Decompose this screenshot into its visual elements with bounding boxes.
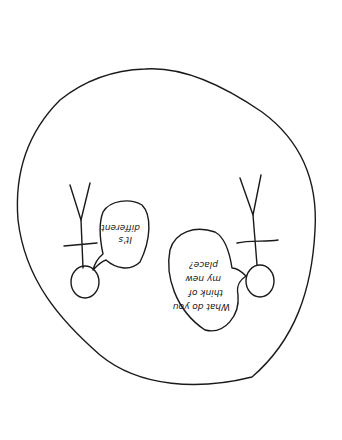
enclosing-oval — [17, 69, 315, 385]
right-speech-line-2: think of — [187, 288, 223, 298]
right-speech-line-3: my new — [185, 274, 221, 284]
left-stick-figure — [64, 183, 99, 298]
right-figure-head — [246, 265, 274, 297]
left-figure-arms — [64, 243, 97, 246]
right-speech-line-4: place? — [189, 260, 219, 270]
left-speech-bubble: It's different — [93, 201, 149, 270]
right-speech-bubble: What do you think of my new place? — [169, 229, 246, 330]
right-speech-line-1: What do you — [173, 302, 230, 312]
left-figure-legs — [70, 183, 90, 220]
left-figure-head — [71, 266, 99, 298]
left-speech-line-2: different — [101, 223, 140, 233]
right-figure-legs — [240, 175, 261, 215]
right-figure-body — [253, 215, 257, 265]
right-figure-arms — [237, 240, 278, 243]
left-speech-line-1: It's — [118, 235, 132, 245]
sketch-canvas: It's different What do you think of my n… — [0, 0, 342, 440]
